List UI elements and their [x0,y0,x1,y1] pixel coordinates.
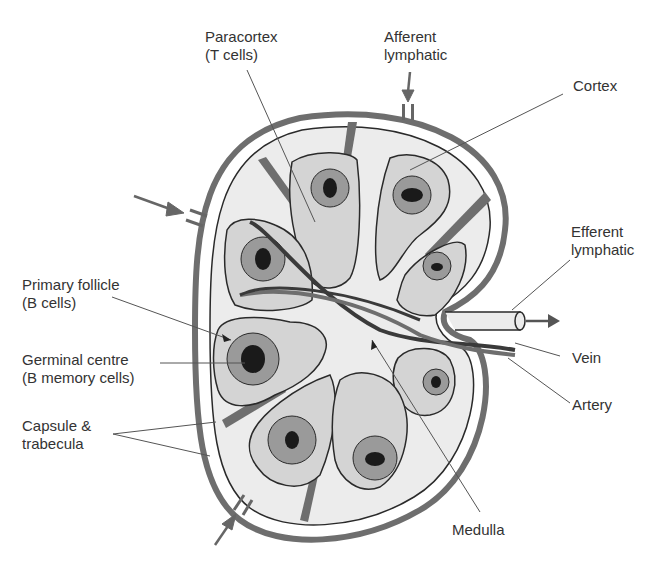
lymph-node-diagram: Paracortex (T cells) Afferent lymphatic … [0,0,669,567]
label-cortex: Cortex [573,77,617,95]
label-primary-follicle: Primary follicle (B cells) [22,276,120,312]
efferent-lymphatic-vessel [445,312,560,330]
label-capsule-line1: Capsule & [22,417,91,434]
label-primary-follicle-line2: (B cells) [22,294,76,311]
label-artery: Artery [572,396,612,414]
label-germinal-centre-line1: Germinal centre [22,351,129,368]
label-medulla: Medulla [452,521,505,539]
label-afferent-line2: lymphatic [384,46,447,63]
label-primary-follicle-line1: Primary follicle [22,276,120,293]
label-efferent-line1: Efferent [571,223,623,240]
label-efferent-line2: lymphatic [571,241,634,258]
label-germinal-centre-line2: (B memory cells) [22,369,135,386]
label-vein: Vein [572,349,601,367]
label-afferent-lymphatic: Afferent lymphatic [384,28,447,64]
label-cortex-line1: Cortex [573,77,617,94]
label-paracortex: Paracortex (T cells) [205,28,278,64]
label-paracortex-line1: Paracortex [205,28,278,45]
label-capsule-line2: trabecula [22,435,84,452]
label-artery-line1: Artery [572,396,612,413]
label-capsule-trabecula: Capsule & trabecula [22,417,91,453]
label-paracortex-line2: (T cells) [205,46,258,63]
label-germinal-centre: Germinal centre (B memory cells) [22,351,135,387]
label-vein-line1: Vein [572,349,601,366]
label-afferent-line1: Afferent [384,28,436,45]
label-efferent-lymphatic: Efferent lymphatic [571,223,634,259]
label-medulla-line1: Medulla [452,521,505,538]
